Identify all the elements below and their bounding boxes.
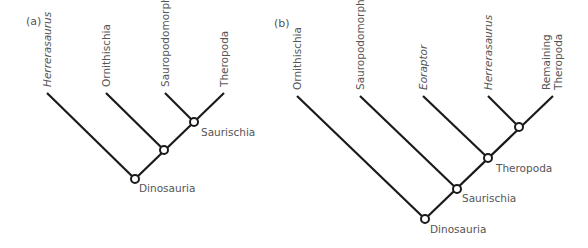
branch-herrerasaurus: [47, 93, 135, 179]
cladogram-figure: (a) Saurischia Dinosauria Herrerasaurus …: [0, 0, 588, 248]
node-saurischia: [190, 118, 198, 126]
node-unnamed: [515, 123, 523, 131]
branch-ornithischia: [297, 96, 425, 219]
branch-sauropodomorpha: [165, 93, 194, 122]
taxon-herrerasaurus: Herrerasaurus: [41, 11, 53, 87]
node-unnamed: [160, 146, 168, 154]
taxon-ornithischia: Ornithischia: [291, 27, 303, 90]
branch-sauropodomorpha: [360, 96, 457, 189]
node-dinosauria: [131, 175, 139, 183]
clade-label-theropoda: Theropoda: [495, 162, 552, 174]
branch-eoraptor: [423, 96, 488, 158]
taxon-theropoda: Theropoda: [218, 31, 230, 88]
taxon-eoraptor: Eoraptor: [417, 44, 429, 90]
node-saurischia: [453, 185, 461, 193]
taxon-herrerasaurus: Herrerasaurus: [482, 14, 494, 90]
clade-label-dinosauria: Dinosauria: [139, 182, 195, 194]
taxon-ornithischia: Ornithischia: [100, 24, 112, 87]
panel-a-label: (a): [26, 15, 41, 28]
clade-label-saurischia: Saurischia: [201, 126, 255, 138]
panel-b: (b) Theropoda Saurischia Dinosauria Orni…: [274, 0, 564, 235]
panel-b-label: (b): [274, 17, 290, 30]
clade-label-saurischia: Saurischia: [462, 192, 516, 204]
branch-ornithischia: [106, 93, 164, 150]
clade-label-dinosauria: Dinosauria: [430, 223, 486, 235]
taxon-remaining-theropoda: Theropoda: [552, 34, 564, 91]
taxon-sauropodomorpha: Sauropodomorpha: [354, 0, 366, 90]
branch-herrerasaurus: [488, 96, 519, 127]
taxon-remaining: Remaining: [540, 34, 552, 90]
node-theropoda: [484, 154, 492, 162]
panel-a: (a) Saurischia Dinosauria Herrerasaurus …: [26, 0, 255, 194]
taxon-sauropodomorpha: Sauropodomorpha: [159, 0, 171, 87]
node-dinosauria: [421, 215, 429, 223]
